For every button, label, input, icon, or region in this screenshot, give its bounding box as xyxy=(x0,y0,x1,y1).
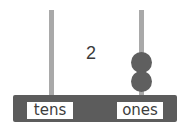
ones-bead-1 xyxy=(131,52,152,73)
abacus-base: tens ones xyxy=(13,95,177,122)
number-label: 2 xyxy=(86,43,96,64)
ones-label: ones xyxy=(117,102,163,119)
tens-label: tens xyxy=(27,102,73,119)
ones-bead-2 xyxy=(131,71,152,92)
tens-rod xyxy=(49,10,54,96)
